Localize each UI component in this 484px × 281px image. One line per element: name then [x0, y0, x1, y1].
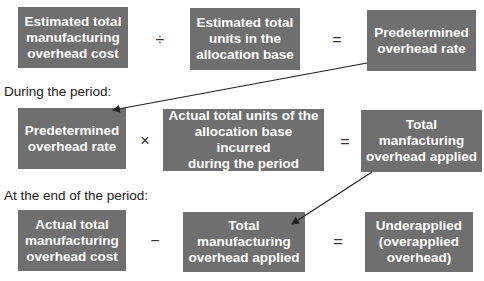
minus-operator: − [150, 232, 159, 250]
overhead-applied-result-box: Total manfacturing overhead applied [361, 110, 482, 172]
estimated-allocation-units-box: Estimated total units in the allocation … [190, 8, 300, 70]
predetermined-rate-box: Predetermined overhead rate [18, 108, 126, 169]
overhead-applied-box: Total manufacturing overhead applied [183, 212, 305, 272]
actual-overhead-cost-box: Actual total manufacturing overhead cost [18, 210, 126, 271]
predetermined-rate-result-box: Predetermined overhead rate [367, 10, 476, 71]
actual-allocation-units-box: Actual total units of the allocation bas… [163, 109, 324, 171]
under-overapplied-result-box: Underapplied (overapplied overhead) [365, 212, 473, 272]
equals-operator-3: = [333, 233, 342, 251]
estimated-total-overhead-box: Estimated total manufacturing overhead c… [18, 7, 128, 68]
divide-operator: ÷ [156, 31, 165, 49]
multiply-operator: × [140, 132, 149, 150]
arrow-rate-to-row2 [113, 63, 367, 110]
end-of-period-heading: At the end of the period: [4, 188, 148, 203]
equals-operator-2: = [340, 133, 349, 151]
equals-operator-1: = [332, 31, 341, 49]
during-period-heading: During the period: [4, 84, 111, 99]
